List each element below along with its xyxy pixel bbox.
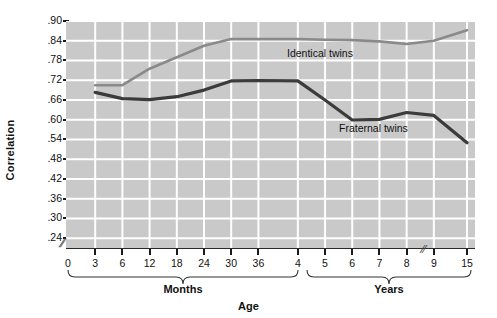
y-axis-title: Correlation: [4, 90, 16, 210]
brace-years: [307, 270, 471, 284]
gridlines: [66, 21, 475, 248]
x-axis-line: [66, 248, 475, 249]
y-tick-label: .78: [36, 54, 62, 65]
x-tick-mark: [324, 249, 326, 255]
brace-months: [68, 270, 298, 284]
y-tick-label: .36: [36, 193, 62, 204]
x-tick-mark: [230, 249, 232, 255]
x-group-label-years: Years: [319, 283, 459, 295]
x-axis-title: Age: [0, 300, 497, 312]
x-tick-mark: [297, 249, 299, 255]
series-lines: [95, 30, 467, 143]
x-tick-mark: [351, 249, 353, 255]
y-tick-label: .90: [36, 15, 62, 26]
series-line-fraternal-twins: [95, 81, 467, 143]
x-tick-mark: [149, 249, 151, 255]
x-group-label-months: Months: [113, 283, 253, 295]
x-tick-mark: [176, 249, 178, 255]
y-tick-label: .42: [36, 173, 62, 184]
series-line-identical-twins: [95, 30, 467, 85]
series-label-identical-twins: Identical twins: [287, 47, 353, 59]
plot-svg: [66, 21, 475, 248]
y-tick-label: .60: [36, 114, 62, 125]
x-tick-mark: [121, 249, 123, 255]
y-tick-label: .54: [36, 133, 62, 144]
twin-correlation-chart: Correlation .24.30.36.42.48.54.60.66.72.…: [0, 0, 497, 318]
y-tick-label: .24: [36, 232, 62, 243]
x-tick-mark: [433, 249, 435, 255]
y-tick-label: .66: [36, 94, 62, 105]
x-tick-mark: [203, 249, 205, 255]
x-tick-mark: [466, 249, 468, 255]
x-tick-mark: [94, 249, 96, 255]
y-tick-label: .48: [36, 153, 62, 164]
y-tick-label: .30: [36, 212, 62, 223]
x-tick-mark: [257, 249, 259, 255]
y-tick-label: .72: [36, 74, 62, 85]
plot-area: [66, 21, 475, 248]
series-label-fraternal-twins: Fraternal twins: [339, 122, 408, 134]
x-tick-mark: [378, 249, 380, 255]
x-tick-mark: [406, 249, 408, 255]
y-tick-label: .84: [36, 35, 62, 46]
